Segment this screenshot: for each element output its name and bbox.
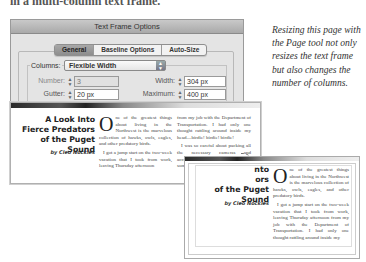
narrow-headline-fragment-2: ors	[225, 175, 269, 185]
number-label: Number:	[31, 77, 65, 84]
col2-paragraph-1: from my job with the Department of Trans…	[177, 115, 251, 141]
gutter-label: Gutter:	[31, 90, 65, 97]
col1-paragraph-2: I got a jump start on the two-week vacat…	[99, 150, 172, 170]
narrow-byline: by Cleo Nockles	[189, 200, 269, 206]
column-1: One of the greatest things about living …	[99, 115, 172, 172]
photo-strip	[11, 103, 260, 108]
tab-baseline-options[interactable]: Baseline Options	[94, 45, 162, 55]
caption: Resizing this page with the Page tool no…	[272, 23, 366, 89]
number-stepper-icon[interactable]: ▲▼	[67, 77, 73, 87]
maximum-stepper-icon[interactable]: ▲▼	[177, 90, 183, 100]
select-arrows-icon: ▲▼	[156, 61, 165, 70]
photo-strip	[185, 157, 359, 161]
number-field[interactable]: 3	[74, 76, 119, 87]
narrow-column: One of the greatest things about living …	[273, 167, 349, 244]
maximum-field[interactable]: 400 px	[184, 89, 226, 100]
tab-general[interactable]: General	[55, 45, 94, 55]
maximum-label: Maximum:	[129, 90, 175, 97]
columns-select-value: Flexible Width	[69, 62, 116, 69]
gutter-field[interactable]: 20 px	[74, 89, 119, 100]
text-frame-options-dialog: Text Frame Options General Baseline Opti…	[10, 19, 244, 103]
page-narrow-resized: nto ors of the Puget Sound by Cleo Nockl…	[184, 156, 360, 259]
byline: by Cleo Nockles	[15, 149, 95, 155]
columns-select[interactable]: Flexible Width ▲▼	[64, 60, 166, 71]
columns-label: Columns:	[30, 62, 62, 69]
gutter-stepper-icon[interactable]: ▲▼	[67, 90, 73, 100]
headline-line-1: A Look Into	[15, 115, 95, 125]
tab-auto-size[interactable]: Auto-Size	[162, 45, 206, 55]
drop-cap: O	[273, 168, 287, 184]
width-stepper-icon[interactable]: ▲▼	[177, 77, 183, 87]
width-label: Width:	[139, 77, 175, 84]
headline-line-2: Fierce Predators	[15, 125, 95, 135]
drop-cap: O	[99, 116, 113, 132]
tab-bar: General Baseline Options Auto-Size	[54, 44, 207, 56]
narrow-headline: nto ors of the Puget Sound	[225, 165, 269, 205]
cut-off-heading: in a multi-column text frame.	[10, 0, 200, 6]
narrow-headline-fragment-1: nto	[225, 165, 269, 175]
width-field[interactable]: 304 px	[184, 76, 226, 87]
dialog-title: Text Frame Options	[11, 20, 243, 34]
narrow-paragraph-2: I got a jump start on the two-week vacat…	[273, 202, 349, 242]
